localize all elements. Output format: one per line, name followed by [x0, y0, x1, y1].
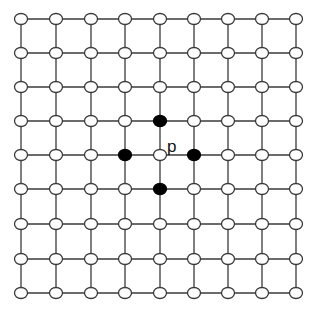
pixel-node	[290, 14, 303, 25]
pixel-node	[50, 184, 63, 195]
pixel-node	[188, 48, 201, 59]
pixel-node	[85, 116, 98, 127]
center-pixel-label-p: p	[167, 137, 176, 156]
pixel-node	[256, 116, 269, 127]
pixel-node	[154, 219, 167, 230]
pixel-node	[188, 82, 201, 93]
pixel-node	[222, 48, 235, 59]
pixel-node	[290, 82, 303, 93]
pixel-node	[50, 14, 63, 25]
pixel-node	[15, 219, 28, 230]
pixel-node	[290, 48, 303, 59]
pixel-node	[85, 14, 98, 25]
pixel-node	[154, 48, 167, 59]
pixel-node	[256, 14, 269, 25]
pixel-node	[256, 150, 269, 161]
pixel-node	[15, 184, 28, 195]
pixel-node	[85, 254, 98, 265]
center-pixel-node	[154, 150, 167, 161]
grid-nodes	[15, 14, 303, 299]
pixel-node	[222, 150, 235, 161]
pixel-node	[290, 288, 303, 299]
pixel-node	[85, 184, 98, 195]
pixel-node	[50, 48, 63, 59]
pixel-node	[50, 82, 63, 93]
pixel-node	[256, 184, 269, 195]
pixel-node	[85, 150, 98, 161]
pixel-node	[188, 254, 201, 265]
pixel-node	[15, 116, 28, 127]
pixel-node	[188, 288, 201, 299]
pixel-node	[256, 254, 269, 265]
pixel-node	[290, 150, 303, 161]
pixel-node	[256, 219, 269, 230]
neighbor-pixel-node	[154, 116, 167, 127]
pixel-node	[50, 254, 63, 265]
pixel-node	[85, 48, 98, 59]
pixel-node	[222, 116, 235, 127]
pixel-node	[50, 150, 63, 161]
pixel-node	[154, 288, 167, 299]
pixel-node	[119, 254, 132, 265]
pixel-node	[15, 14, 28, 25]
pixel-node	[290, 116, 303, 127]
pixel-node	[85, 288, 98, 299]
pixel-node	[154, 14, 167, 25]
pixel-node	[188, 219, 201, 230]
pixel-node	[188, 184, 201, 195]
pixel-node	[222, 254, 235, 265]
pixel-node	[256, 48, 269, 59]
pixel-node	[222, 219, 235, 230]
pixel-node	[188, 14, 201, 25]
pixel-node	[119, 14, 132, 25]
pixel-node	[85, 219, 98, 230]
neighbor-pixel-node	[119, 150, 132, 161]
pixel-node	[119, 48, 132, 59]
pixel-node	[188, 116, 201, 127]
pixel-node	[50, 219, 63, 230]
pixel-node	[154, 82, 167, 93]
pixel-node	[50, 116, 63, 127]
pixel-node	[85, 82, 98, 93]
pixel-node	[119, 184, 132, 195]
neighbor-pixel-node	[154, 184, 167, 195]
pixel-node	[15, 150, 28, 161]
pixel-node	[290, 254, 303, 265]
pixel-node	[290, 219, 303, 230]
pixel-node	[119, 116, 132, 127]
pixel-node	[222, 14, 235, 25]
pixel-node	[256, 288, 269, 299]
pixel-node	[119, 82, 132, 93]
pixel-node	[222, 82, 235, 93]
neighbor-pixel-node	[188, 150, 201, 161]
pixel-node	[15, 48, 28, 59]
pixel-node	[119, 219, 132, 230]
pixel-node	[50, 288, 63, 299]
pixel-node	[256, 82, 269, 93]
pixel-node	[15, 254, 28, 265]
pixel-node	[15, 288, 28, 299]
pixel-node	[222, 288, 235, 299]
pixel-node	[15, 82, 28, 93]
pixel-node	[222, 184, 235, 195]
pixel-node	[154, 254, 167, 265]
pixel-node	[119, 288, 132, 299]
pixel-node	[290, 184, 303, 195]
pixel-neighborhood-grid-diagram: p	[0, 0, 316, 314]
